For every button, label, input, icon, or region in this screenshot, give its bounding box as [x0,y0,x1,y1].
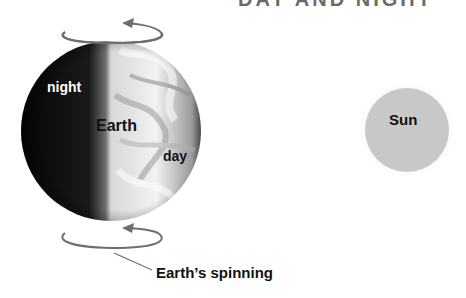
sun-disc [357,80,457,180]
spinning-pointer-line [114,253,152,270]
sun-label: Sun [389,111,417,128]
top-rotation-arrow-icon [62,18,161,43]
night-label: night [47,79,81,95]
day-label: day [163,148,187,164]
earths-spinning-label: Earth’s spinning [156,264,273,281]
diagram-canvas [0,0,466,298]
earth-label: Earth [96,117,137,135]
bottom-rotation-arrow-icon [62,223,161,248]
